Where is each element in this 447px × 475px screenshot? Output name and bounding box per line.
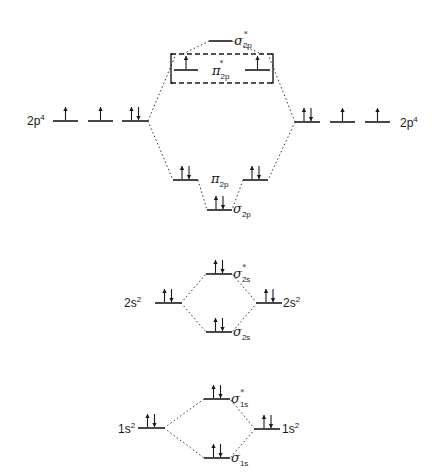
level-left-2p-c	[122, 107, 148, 121]
correlation-line	[181, 274, 206, 303]
level-pi-2p-right	[243, 166, 268, 180]
arrowhead-icon	[302, 108, 306, 112]
level-sigma-star-1s	[204, 385, 230, 399]
arrowhead-icon	[309, 117, 313, 121]
label-sigma-1s: σ1s	[231, 450, 248, 468]
level-left-2p-a	[53, 107, 78, 121]
arrowhead-icon	[213, 260, 217, 264]
level-pi-star-2p-right	[245, 56, 270, 70]
level-left-2p-b	[88, 107, 113, 121]
arrowhead-icon	[145, 414, 149, 418]
label-right-2p: 2p4	[400, 115, 418, 130]
label-sigma-star-2s: σ2s*	[233, 263, 250, 284]
arrowhead-icon	[255, 56, 259, 60]
level-sigma-star-2s	[206, 260, 232, 274]
label-left-2s: 2s2	[124, 295, 142, 310]
box-left-bracket	[171, 54, 173, 83]
energy-levels	[53, 41, 390, 458]
correlation-line	[148, 54, 176, 121]
level-right-2s	[257, 289, 282, 303]
level-right-2p-b	[330, 108, 355, 122]
arrowhead-icon	[221, 205, 225, 209]
arrowhead-icon	[220, 327, 224, 331]
correlation-line	[268, 54, 295, 122]
arrowhead-icon	[129, 107, 133, 111]
level-sigma-2s	[206, 318, 232, 332]
arrowhead-icon	[98, 107, 102, 111]
arrowhead-icon	[218, 394, 222, 398]
arrowhead-icon	[187, 175, 191, 179]
box-right-bracket	[271, 54, 273, 83]
level-pi-2p-left	[173, 166, 198, 180]
label-right-1s: 1s2	[282, 421, 300, 436]
arrowhead-icon	[63, 107, 67, 111]
arrowhead-icon	[340, 108, 344, 112]
label-left-1s: 1s2	[118, 421, 136, 436]
correlation-line	[198, 180, 207, 210]
arrowhead-icon	[250, 166, 254, 170]
label-right-2s: 2s2	[283, 295, 301, 310]
arrowhead-icon	[180, 166, 184, 170]
arrowhead-icon	[271, 298, 275, 302]
level-sigma-1s	[204, 444, 230, 458]
correlation-line	[183, 41, 209, 54]
arrowhead-icon	[220, 269, 224, 273]
arrowhead-icon	[136, 116, 140, 120]
arrowhead-icon	[218, 453, 222, 457]
level-left-2s	[155, 289, 181, 303]
arrowhead-icon	[214, 196, 218, 200]
label-sigma-2s: σ2s	[233, 324, 250, 342]
arrowhead-icon	[169, 298, 173, 302]
correlation-line	[181, 303, 206, 332]
arrowhead-icon	[213, 318, 217, 322]
arrowhead-icon	[264, 289, 268, 293]
arrowhead-icon	[184, 56, 188, 60]
mo-diagram: 2p4 2p4 2s2 2s2 1s2 1s2 σ2p* π2p* π2p σ2…	[0, 0, 447, 475]
level-right-2p-a	[295, 108, 320, 122]
arrowhead-icon	[162, 289, 166, 293]
level-left-1s	[138, 414, 164, 428]
level-pi-star-2p-left	[174, 56, 198, 70]
correlation-line	[268, 122, 295, 180]
label-left-2p: 2p4	[27, 113, 45, 128]
arrowhead-icon	[269, 424, 273, 428]
label-pi-star-2p: π2p*	[211, 59, 230, 81]
label-sigma-star-1s: σ1s*	[231, 388, 248, 409]
level-right-2p-c	[365, 108, 390, 122]
label-sigma-2p: σ2p	[233, 201, 251, 219]
arrowhead-icon	[262, 415, 266, 419]
arrowhead-icon	[211, 444, 215, 448]
level-right-1s	[255, 415, 280, 429]
arrowhead-icon	[375, 108, 379, 112]
correlation-line	[164, 428, 204, 458]
arrowhead-icon	[152, 423, 156, 427]
level-sigma-2p	[207, 196, 232, 210]
arrowhead-icon	[257, 175, 261, 179]
arrowhead-icon	[211, 385, 215, 389]
correlation-line	[148, 121, 173, 180]
label-sigma-star-2p: σ2p*	[234, 30, 252, 50]
correlation-line	[164, 399, 204, 428]
label-pi-2p: π2p	[210, 171, 229, 189]
